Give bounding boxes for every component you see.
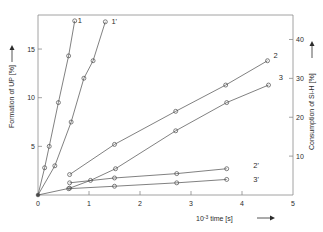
curve-label-1: 1 <box>78 16 82 25</box>
x-tick-label: 2 <box>138 200 142 207</box>
curve-label-2prime: 2' <box>253 161 259 170</box>
y2-tick-label: 30 <box>296 75 304 82</box>
series-line-1prime <box>38 22 105 195</box>
y2-axis-title: Consumption of Si-H [%] <box>308 73 316 150</box>
y-tick-label: 15 <box>27 46 35 53</box>
chart-svg: 012345510151020304011'232'3'10-3 time [s… <box>0 0 323 232</box>
y-tick-label: 10 <box>27 94 35 101</box>
x-axis-title: 10-3 time [s] <box>196 214 233 224</box>
x-tick-label: 0 <box>36 200 40 207</box>
curve-label-2: 2 <box>274 51 278 60</box>
x-tick-label: 5 <box>291 200 295 207</box>
y-axis-title: Formation of UP [%] <box>8 65 16 128</box>
curve-label-3: 3 <box>279 73 283 82</box>
curve-label-1prime: 1' <box>111 17 117 26</box>
x-tick-label: 4 <box>240 200 244 207</box>
y-axis-arrow-head <box>10 45 15 50</box>
x-axis-arrow-head <box>270 216 275 221</box>
figure-container: 012345510151020304011'232'3'10-3 time [s… <box>0 0 323 232</box>
y2-tick-label: 40 <box>296 36 304 43</box>
y2-tick-label: 20 <box>296 114 304 121</box>
y-tick-label: 5 <box>31 143 35 150</box>
origin-point <box>36 193 40 197</box>
y2-axis-arrow-head <box>310 41 315 46</box>
y2-tick-label: 10 <box>296 153 304 160</box>
series-line-2 <box>70 61 268 175</box>
series-line-3 <box>38 85 269 195</box>
x-tick-label: 3 <box>189 200 193 207</box>
series-line-1 <box>38 21 75 195</box>
curve-label-3prime: 3' <box>253 175 259 184</box>
x-tick-label: 1 <box>87 200 91 207</box>
